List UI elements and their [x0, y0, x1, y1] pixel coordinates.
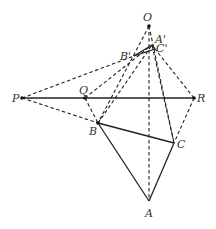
desargues-diagram: O A' C' B' P Q R B C A	[0, 0, 216, 229]
labels: O A' C' B' P Q R B C A	[11, 11, 205, 220]
point-O	[147, 24, 151, 28]
label-C-prime: C'	[156, 42, 167, 55]
label-A: A	[144, 207, 153, 220]
point-P	[20, 96, 24, 100]
dashed-segment-P-B	[22, 98, 98, 123]
solid-lines	[22, 45, 194, 201]
dashed-segment-O-B	[98, 26, 149, 123]
dashed-segment-R-C_prime	[155, 49, 194, 98]
label-Q: Q	[79, 84, 88, 97]
label-P: P	[11, 92, 20, 105]
label-O: O	[143, 11, 152, 24]
dashed-segment-R-C	[174, 98, 194, 143]
dashed-lines	[22, 26, 194, 201]
dashed-segment-P-B_prime	[22, 56, 134, 98]
label-B-prime: B'	[119, 50, 131, 63]
segment-A-C	[149, 143, 174, 201]
points	[20, 24, 196, 125]
label-B: B	[88, 125, 97, 138]
label-C: C	[177, 138, 186, 151]
label-R: R	[196, 92, 205, 105]
point-R	[192, 96, 196, 100]
